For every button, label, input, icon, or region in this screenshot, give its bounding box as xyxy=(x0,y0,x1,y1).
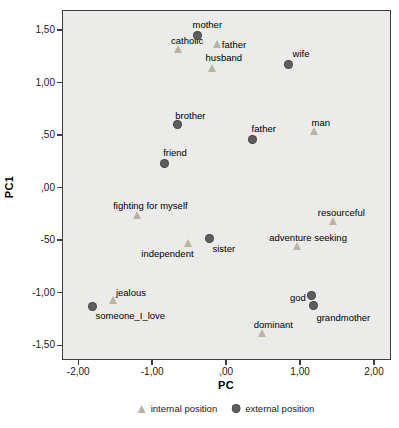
data-point-label: fighting for myself xyxy=(113,199,187,210)
data-point-label: friend xyxy=(163,147,187,158)
y-tick-label: -1,50 xyxy=(0,339,55,351)
data-point-marker-triangle xyxy=(184,239,192,247)
x-axis-title: PC xyxy=(218,379,234,391)
y-axis-title: PC1 xyxy=(3,176,15,198)
y-tick-label: 1,00 xyxy=(0,77,55,89)
data-point-label: man xyxy=(312,116,330,127)
x-tick-label: ,00 xyxy=(204,366,248,378)
data-point-marker-triangle xyxy=(329,217,337,225)
data-point-label: jealous xyxy=(116,287,146,298)
data-point-label: father xyxy=(222,38,246,49)
x-tick-label: 2,00 xyxy=(352,366,396,378)
x-tick-label: 1,00 xyxy=(278,366,322,378)
x-tick-label: -1,00 xyxy=(130,366,174,378)
x-tick-mark xyxy=(373,360,375,365)
y-tick-mark xyxy=(57,239,62,241)
data-point-marker-triangle xyxy=(208,64,216,72)
y-tick-mark xyxy=(57,29,62,31)
data-point-marker-triangle xyxy=(174,45,182,53)
data-point-marker-triangle xyxy=(213,40,221,48)
legend-item-external-position: external position xyxy=(231,403,314,414)
y-tick-label: 1,50 xyxy=(0,24,55,36)
legend-label-external: external position xyxy=(245,403,314,414)
x-tick-mark xyxy=(78,360,80,365)
data-point-label: god xyxy=(290,291,306,302)
data-point-label: brother xyxy=(175,109,205,120)
data-point-marker-circle xyxy=(205,234,214,243)
x-tick-mark xyxy=(299,360,301,365)
data-point-label: wife xyxy=(293,47,310,58)
data-point-label: mother xyxy=(192,19,222,30)
legend-label-internal: internal position xyxy=(151,403,218,414)
data-point-label: husband xyxy=(206,51,242,62)
data-point-label: resourceful xyxy=(318,207,365,218)
data-point-label: sister xyxy=(213,243,236,254)
x-tick-mark xyxy=(151,360,153,365)
y-tick-label: -50 xyxy=(0,234,55,246)
data-point-marker-circle xyxy=(173,120,182,129)
circle-marker-icon xyxy=(231,404,240,413)
data-point-marker-triangle xyxy=(293,242,301,250)
y-tick-mark xyxy=(57,292,62,294)
data-point-label: someone_I_love xyxy=(95,310,165,321)
triangle-marker-icon xyxy=(138,405,146,413)
data-point-label: grandmother xyxy=(316,312,370,323)
y-tick-label: -1,00 xyxy=(0,287,55,299)
data-point-marker-circle xyxy=(248,135,257,144)
data-point-marker-triangle xyxy=(133,211,141,219)
data-point-marker-circle xyxy=(193,31,202,40)
data-point-marker-circle xyxy=(309,301,318,310)
plot-area xyxy=(62,10,391,360)
legend-item-internal-position: internal position xyxy=(138,403,218,414)
x-tick-label: -2,00 xyxy=(56,366,100,378)
data-point-marker-triangle xyxy=(310,127,318,135)
y-tick-mark xyxy=(57,82,62,84)
data-point-label: father xyxy=(252,123,276,134)
y-tick-mark xyxy=(57,345,62,347)
data-point-marker-circle xyxy=(160,159,169,168)
y-tick-mark xyxy=(57,187,62,189)
data-point-label: independent xyxy=(141,248,193,259)
data-point-label: dominant xyxy=(254,318,293,329)
pca-scatter-chart: 1,501,00,50,00-50-1,00-1,50 -2,00-1,00,0… xyxy=(0,0,399,428)
y-tick-mark xyxy=(57,134,62,136)
legend: internal position external position xyxy=(138,403,315,414)
y-tick-label: ,50 xyxy=(0,129,55,141)
data-point-label: adventure seeking xyxy=(269,232,347,243)
x-tick-mark xyxy=(225,360,227,365)
data-point-marker-triangle xyxy=(258,329,266,337)
